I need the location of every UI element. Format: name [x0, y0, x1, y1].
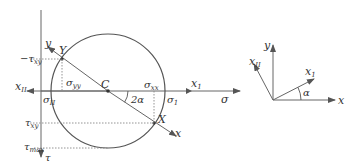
label-x1-axis: x1 — [191, 77, 202, 91]
label-tau-xy: τxy — [25, 117, 39, 130]
label-sigma-xx: σxx — [144, 79, 159, 92]
frame-label-x1: x1 — [305, 65, 316, 79]
label-tau-axis: τ — [45, 152, 51, 163]
label-2alpha: 2α — [130, 94, 144, 105]
label-sigma-1: σ1 — [167, 94, 178, 107]
coordinate-frame-figure: y x x1 xII α — [249, 39, 345, 107]
label-neg-tau-xy: −τxy — [20, 53, 43, 66]
label-point-x: X — [157, 113, 167, 126]
diagram-canvas: y Y C X x −τxy xII σII σyy σxx σ1 x1 σ 2… — [0, 0, 356, 167]
frame-xII-axis — [254, 64, 273, 100]
label-y-axis-rotated: y — [44, 37, 52, 50]
label-sigma-yy: σyy — [66, 77, 82, 90]
label-sigma-axis: σ — [221, 93, 229, 106]
label-x-axis-rotated: x — [175, 127, 182, 140]
frame-label-alpha: α — [303, 87, 310, 98]
frame-label-y: y — [263, 39, 271, 52]
angle-alpha-arc — [298, 87, 301, 100]
angle-2alpha-arc — [125, 91, 128, 102]
label-xII-axis: xII — [15, 80, 27, 94]
mohr-circle-figure: y Y C X x −τxy xII σII σyy σxx σ1 x1 σ 2… — [15, 10, 240, 163]
label-sigma-II: σII — [43, 94, 56, 107]
label-point-y: Y — [59, 44, 68, 57]
frame-label-xII: xII — [249, 55, 261, 69]
frame-label-x: x — [338, 94, 345, 107]
label-center-c: C — [101, 78, 110, 91]
